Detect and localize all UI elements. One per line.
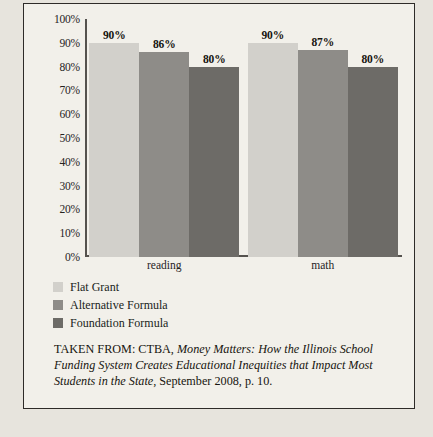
- caption-prefix: TAKEN FROM: CTBA,: [54, 342, 177, 356]
- legend-swatch: [53, 282, 63, 292]
- y-axis-tick: 40%: [28, 156, 80, 168]
- legend-item[interactable]: Foundation Formula: [53, 315, 353, 331]
- x-axis-category-labels: readingmath: [85, 259, 402, 271]
- y-axis-tick: 20%: [28, 203, 80, 215]
- legend-item[interactable]: Flat Grant: [53, 279, 353, 295]
- legend-swatch: [53, 318, 63, 328]
- bar-slot: 90%: [89, 19, 139, 257]
- source-caption: TAKEN FROM: CTBA, Money Matters: How the…: [54, 341, 409, 390]
- legend-swatch: [53, 300, 63, 310]
- legend-item[interactable]: Alternative Formula: [53, 297, 353, 313]
- bar-slot: 86%: [139, 19, 189, 257]
- y-axis-tick: 0%: [28, 251, 80, 263]
- bar[interactable]: 86%: [139, 52, 189, 257]
- bar-slot: 80%: [348, 19, 398, 257]
- page-frame: 100%90%80%70%60%50%40%30%20%10%0% 90%86%…: [23, 3, 415, 409]
- bar[interactable]: 90%: [89, 43, 139, 257]
- chart-legend: Flat GrantAlternative FormulaFoundation …: [53, 279, 353, 333]
- x-axis-category-label: reading: [85, 259, 244, 271]
- bar-slot: 90%: [248, 19, 298, 257]
- caption-suffix: , September 2008, p. 10.: [153, 374, 272, 388]
- y-axis-tick: 50%: [28, 132, 80, 144]
- bar-value-label: 90%: [103, 29, 125, 41]
- scanned-page: 100%90%80%70%60%50%40%30%20%10%0% 90%86%…: [0, 0, 433, 437]
- y-axis-tick: 10%: [28, 227, 80, 239]
- bar-group: 90%87%80%: [244, 19, 403, 257]
- bar-groups: 90%86%80%90%87%80%: [85, 19, 402, 257]
- bar-slot: 80%: [189, 19, 239, 257]
- bar[interactable]: 90%: [248, 43, 298, 257]
- bar-value-label: 80%: [362, 53, 384, 65]
- x-axis-category-label: math: [244, 259, 403, 271]
- bar-slot: 87%: [298, 19, 348, 257]
- legend-label: Foundation Formula: [70, 316, 168, 331]
- bar-value-label: 90%: [262, 29, 284, 41]
- y-axis-tick: 30%: [28, 180, 80, 192]
- bar[interactable]: 80%: [189, 67, 239, 257]
- y-axis-tick: 60%: [28, 108, 80, 120]
- bar-value-label: 87%: [312, 36, 334, 48]
- bar-value-label: 80%: [203, 53, 225, 65]
- bar-group: 90%86%80%: [85, 19, 244, 257]
- y-axis-tick: 90%: [28, 37, 80, 49]
- bar-value-label: 86%: [153, 38, 175, 50]
- y-axis-tick: 80%: [28, 61, 80, 73]
- legend-label: Flat Grant: [70, 280, 119, 295]
- bar-chart: 100%90%80%70%60%50%40%30%20%10%0% 90%86%…: [24, 9, 414, 274]
- y-axis-tick-labels: 100%90%80%70%60%50%40%30%20%10%0%: [24, 19, 80, 257]
- bar[interactable]: 80%: [348, 67, 398, 257]
- legend-label: Alternative Formula: [70, 298, 168, 313]
- y-axis-tick: 100%: [28, 13, 80, 25]
- bar[interactable]: 87%: [298, 50, 348, 257]
- y-axis-tick: 70%: [28, 84, 80, 96]
